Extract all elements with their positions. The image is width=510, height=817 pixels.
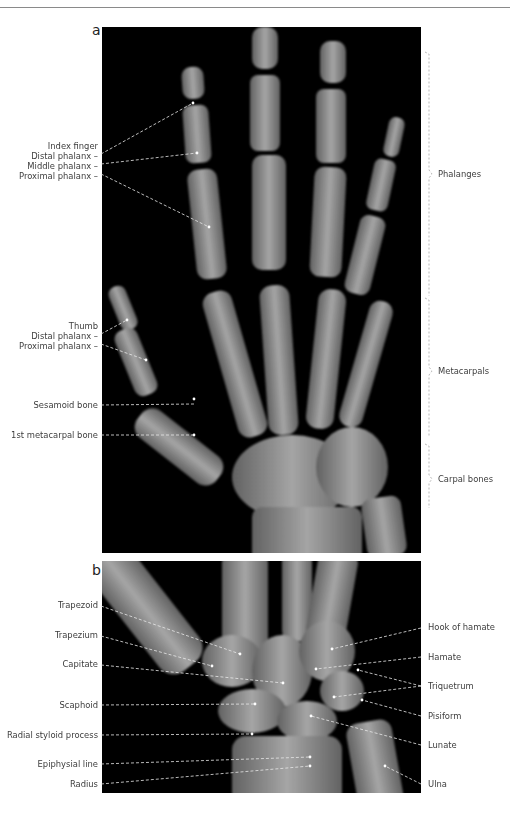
- label-1st-metacarpal: 1st metacarpal bone: [11, 430, 98, 440]
- label-epiphysial-line: Epiphysial line: [38, 759, 98, 769]
- label-carpal-bones: Carpal bones: [438, 474, 493, 484]
- label-radial-styloid: Radial styloid process: [7, 730, 98, 740]
- label-scaphoid: Scaphoid: [60, 700, 98, 710]
- label-capitate: Capitate: [63, 659, 98, 669]
- label-index-proximal-phalanx: Proximal phalanx –: [19, 171, 98, 181]
- label-trapezoid: Trapezoid: [58, 600, 98, 610]
- label-radius: Radius: [70, 779, 98, 789]
- label-thumb-distal-phalanx: Distal phalanx –: [31, 331, 98, 341]
- label-pisiform: Pisiform: [428, 711, 461, 721]
- label-index-distal-phalanx: Distal phalanx –: [31, 151, 98, 161]
- label-index-middle-phalanx: Middle phalanx –: [27, 161, 98, 171]
- label-sesamoid-bone: Sesamoid bone: [34, 400, 98, 410]
- label-index-finger: Index finger: [48, 141, 98, 151]
- label-lunate: Lunate: [428, 740, 457, 750]
- label-trapezium: Trapezium: [55, 630, 98, 640]
- label-ulna: Ulna: [428, 779, 447, 789]
- label-hook-of-hamate: Hook of hamate: [428, 622, 495, 632]
- label-triquetrum: Triquetrum: [428, 681, 474, 691]
- label-phalanges: Phalanges: [438, 169, 481, 179]
- label-metacarpals: Metacarpals: [438, 366, 489, 376]
- label-hamate: Hamate: [428, 652, 461, 662]
- label-thumb-proximal-phalanx: Proximal phalanx –: [19, 341, 98, 351]
- label-thumb: Thumb: [69, 321, 98, 331]
